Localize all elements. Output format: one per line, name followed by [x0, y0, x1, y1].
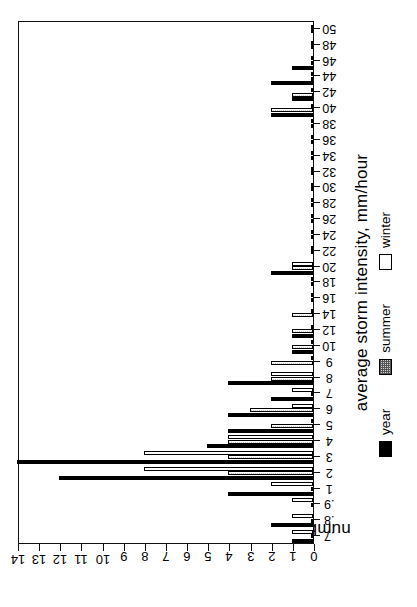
- x-tick: [314, 392, 320, 393]
- bar-chart: number of storms 01234567891011121314 .7…: [0, 0, 417, 607]
- x-tick-label: 30: [323, 180, 336, 194]
- bar-summer: [311, 124, 313, 128]
- bar-winter: [311, 41, 313, 45]
- bar-winter: [311, 246, 313, 250]
- bar-group: [19, 85, 313, 101]
- y-tick-label: 9: [117, 553, 130, 560]
- y-tick-label: 4: [223, 553, 236, 560]
- y-tick: [39, 544, 40, 551]
- y-tick-label: 2: [265, 553, 278, 560]
- x-tick: [314, 91, 320, 92]
- x-tick: [314, 218, 320, 219]
- bar-winter: [292, 262, 313, 266]
- bar-summer: [250, 408, 313, 412]
- bar-group: [19, 306, 313, 322]
- x-tick-label: 8: [323, 374, 336, 381]
- bar-winter: [292, 530, 313, 534]
- x-tick: [314, 250, 320, 251]
- y-tick-label: 13: [33, 553, 46, 567]
- x-tick-label: 20: [323, 260, 336, 274]
- bar-winter: [292, 514, 313, 518]
- bar-summer: [311, 140, 313, 144]
- bar-year: [228, 492, 313, 496]
- x-tick: [314, 202, 320, 203]
- x-tick-label: 4: [323, 438, 336, 445]
- bar-group: [19, 180, 313, 196]
- legend-label-winter: winter: [378, 212, 393, 248]
- x-tick-label: 40: [323, 101, 336, 115]
- x-tick: [314, 456, 320, 457]
- bar-winter: [311, 293, 313, 297]
- bar-winter: [311, 230, 313, 234]
- bar-group: [19, 164, 313, 180]
- x-tick: [314, 329, 320, 330]
- bar-winter: [311, 419, 313, 423]
- x-tick: [314, 266, 320, 267]
- x-tick-label: 2: [323, 469, 336, 476]
- bar-summer: [292, 329, 313, 333]
- bar-year: [17, 460, 313, 464]
- x-tick: [314, 408, 320, 409]
- bar-group: [19, 322, 313, 338]
- bar-winter: [228, 435, 313, 439]
- bar-winter: [311, 104, 313, 108]
- y-tick: [103, 544, 104, 551]
- bar-winter: [311, 72, 313, 76]
- bar-group: [19, 433, 313, 449]
- x-tick-label: 3: [323, 453, 336, 460]
- bar-group: [19, 101, 313, 117]
- x-tick-label: 22: [323, 244, 336, 258]
- x-tick: [314, 377, 320, 378]
- bar-summer: [311, 487, 313, 491]
- bar-group: [19, 338, 313, 354]
- y-tick-label: 0: [308, 553, 321, 560]
- bar-group: [19, 369, 313, 385]
- x-tick: [314, 345, 320, 346]
- legend-label-year: year: [378, 409, 393, 435]
- y-tick-label: 5: [202, 553, 215, 560]
- x-tick: [314, 44, 320, 45]
- bar-year: [207, 444, 313, 448]
- y-tick-label: 12: [54, 553, 67, 567]
- x-tick: [314, 282, 320, 283]
- bar-summer: [311, 29, 313, 33]
- bar-year: [271, 523, 313, 527]
- bar-summer: [311, 171, 313, 175]
- bar-group: [19, 417, 313, 433]
- bar-summer: [228, 456, 313, 460]
- bar-group: [19, 259, 313, 275]
- bar-winter: [311, 198, 313, 202]
- rotated-figure-wrapper: number of storms 01234567891011121314 .7…: [0, 0, 417, 607]
- bar-winter: [311, 167, 313, 171]
- bar-summer: [311, 156, 313, 160]
- bar-winter: [271, 372, 313, 376]
- bar-year: [271, 113, 313, 117]
- bar-group: [19, 243, 313, 259]
- x-tick-label: .8: [323, 515, 336, 525]
- x-tick-label: 9: [323, 358, 336, 365]
- x-tick-label: 38: [323, 117, 336, 131]
- bar-winter: [311, 309, 313, 313]
- x-tick: [314, 155, 320, 156]
- bar-group: [19, 70, 313, 86]
- x-tick: [314, 361, 320, 362]
- bar-summer: [311, 519, 313, 523]
- y-tick-label: 11: [75, 553, 88, 567]
- bar-summer: [311, 250, 313, 254]
- bar-winter: [311, 214, 313, 218]
- bar-summer: [228, 471, 313, 475]
- bar-summer: [292, 93, 313, 97]
- bar-summer: [311, 534, 313, 538]
- x-tick-label: 5: [323, 422, 336, 429]
- bar-winter: [311, 88, 313, 92]
- x-tick: [314, 424, 320, 425]
- x-tick-label: 50: [323, 22, 336, 36]
- bar-group: [19, 401, 313, 417]
- bar-winter: [311, 135, 313, 139]
- y-tick-label: 8: [138, 553, 151, 560]
- bar-group: [19, 196, 313, 212]
- x-tick: [314, 313, 320, 314]
- x-tick: [314, 186, 320, 187]
- bar-winter: [144, 451, 313, 455]
- x-tick-label: 6: [323, 406, 336, 413]
